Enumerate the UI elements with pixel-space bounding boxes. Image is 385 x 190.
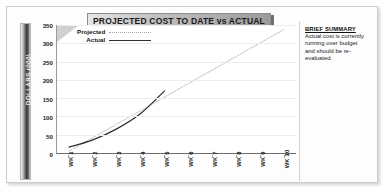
x-tick-label: WK 10 — [284, 150, 290, 169]
x-tick-cell: WK 10 — [272, 155, 296, 183]
plot-area: 050100150200250300350 Projected Actual — [35, 25, 296, 154]
y-tick-label: 300 — [43, 40, 53, 47]
x-axis-tick-labels: WK 1WK 2WK 3WK 4WK 5WK 6WK 7WK 8WK 9WK 1… — [56, 155, 296, 183]
series-line-projected — [69, 29, 284, 151]
x-tick-label: WK 9 — [260, 151, 266, 166]
y-tick-label: 50 — [46, 132, 53, 139]
x-tick-label: WK 2 — [92, 151, 98, 166]
legend-item-actual: Actual — [77, 36, 151, 43]
gridline — [57, 116, 296, 117]
legend-item-projected: Projected — [77, 28, 151, 35]
legend-swatch-projected-icon — [109, 29, 151, 34]
x-tick-cell: WK 2 — [80, 155, 104, 183]
gridline — [57, 62, 296, 63]
x-tick-label: WK 3 — [116, 151, 122, 166]
legend-label-actual: Actual — [86, 36, 105, 43]
y-axis-spine: DOLLARS (000) — [20, 23, 31, 180]
x-tick-label: WK 6 — [188, 151, 194, 166]
gridline — [57, 43, 296, 44]
x-tick-cell: WK 8 — [224, 155, 248, 183]
gridline — [57, 25, 296, 26]
brief-summary-panel: BRIEF SUMMARY Actual cost is currently r… — [305, 26, 367, 63]
x-tick-cell: WK 3 — [104, 155, 128, 183]
x-tick-label: WK 7 — [212, 151, 218, 166]
y-tick-label: 150 — [43, 95, 53, 102]
page-title: PROJECTED COST TO DATE vs ACTUAL — [93, 16, 265, 26]
summary-body-text: Actual cost is currently running over bu… — [305, 33, 367, 63]
y-tick-label: 0 — [50, 151, 53, 158]
x-tick-cell: WK 7 — [200, 155, 224, 183]
summary-heading: BRIEF SUMMARY — [305, 26, 367, 32]
y-axis-title: DOLLARS (000) — [25, 37, 32, 123]
slide-canvas: PROJECTED COST TO DATE vs ACTUAL DOLLARS… — [0, 0, 385, 190]
series-line-actual — [69, 91, 165, 147]
x-tick-label: WK 4 — [140, 151, 146, 166]
summary-divider — [299, 21, 300, 181]
y-tick-label: 100 — [43, 114, 53, 121]
gridline — [57, 80, 296, 81]
x-tick-label: WK 8 — [236, 151, 242, 166]
x-tick-cell: WK 9 — [248, 155, 272, 183]
y-axis-tick-labels: 050100150200250300350 — [35, 25, 54, 154]
chart-legend: Projected Actual — [77, 28, 151, 43]
gridline — [57, 135, 296, 136]
y-tick-label: 200 — [43, 77, 53, 84]
y-tick-label: 350 — [43, 22, 53, 29]
legend-label-projected: Projected — [77, 28, 105, 35]
x-tick-label: WK 5 — [164, 151, 170, 166]
x-tick-cell: WK 5 — [152, 155, 176, 183]
plot-canvas — [56, 25, 296, 154]
legend-swatch-actual-icon — [109, 37, 151, 42]
x-tick-label: WK 1 — [68, 151, 74, 166]
y-tick-label: 250 — [43, 58, 53, 65]
x-tick-cell: WK 1 — [56, 155, 80, 183]
x-tick-cell: WK 4 — [128, 155, 152, 183]
gridline — [57, 98, 296, 99]
slide-frame: PROJECTED COST TO DATE vs ACTUAL DOLLARS… — [6, 6, 378, 183]
x-tick-cell: WK 6 — [176, 155, 200, 183]
